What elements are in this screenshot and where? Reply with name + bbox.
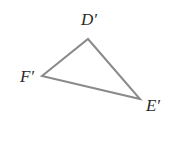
triangle-def (42, 39, 140, 99)
triangle-diagram: D′ E′ F′ (0, 0, 172, 144)
vertex-label-e-prime: E′ (145, 96, 160, 115)
vertex-label-f-prime: F′ (19, 67, 34, 86)
vertex-label-d-prime: D′ (80, 10, 97, 29)
